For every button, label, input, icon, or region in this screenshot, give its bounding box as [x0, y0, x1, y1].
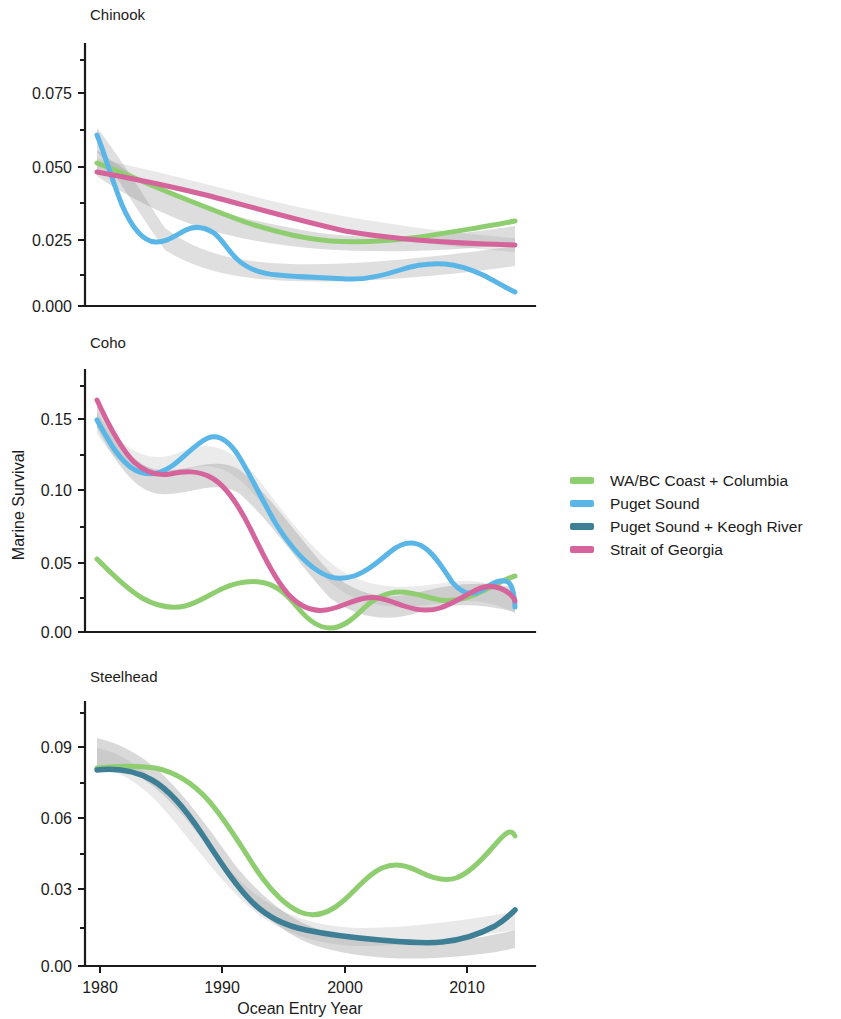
legend-label-2: Puget Sound + Keogh River [610, 518, 803, 535]
chart-svg: Chinook 0.000 0.025 0.050 0.075 [0, 0, 841, 1019]
legend-swatch-green [570, 477, 594, 484]
steelhead-ytick-3: 0.09 [41, 739, 72, 756]
chinook-confidence-bands [97, 128, 515, 281]
chinook-ytick-1: 0.025 [32, 232, 72, 249]
xtick-2010: 2010 [449, 979, 485, 996]
y-axis-title: Marine Survival [10, 450, 27, 560]
legend-label-3: Strait of Georgia [610, 541, 723, 558]
steelhead-ytick-1: 0.03 [41, 881, 72, 898]
coho-ytick-1: 0.05 [41, 555, 72, 572]
coho-line-puget-sound [97, 420, 515, 607]
panel-chinook: Chinook 0.000 0.025 0.050 0.075 [32, 6, 535, 315]
panel-title-coho: Coho [90, 334, 126, 351]
coho-ytick-2: 0.10 [41, 482, 72, 499]
panel-steelhead: Steelhead 0.00 0.03 0.06 0.09 [41, 668, 535, 1017]
steelhead-ytick-2: 0.06 [41, 810, 72, 827]
legend-swatch-pink [570, 546, 594, 553]
legend-swatch-lightblue [570, 500, 594, 507]
panel-title-chinook: Chinook [90, 6, 146, 23]
legend-label-0: WA/BC Coast + Columbia [610, 472, 789, 489]
xtick-1990: 1990 [204, 979, 240, 996]
coho-ytick-0: 0.00 [41, 624, 72, 641]
chinook-ytick-3: 0.075 [32, 85, 72, 102]
coho-ytick-3: 0.15 [41, 411, 72, 428]
legend-label-1: Puget Sound [610, 495, 700, 512]
panel-title-steelhead: Steelhead [90, 668, 158, 685]
chinook-ytick-0: 0.000 [32, 298, 72, 315]
legend: WA/BC Coast + Columbia Puget Sound Puget… [570, 472, 803, 558]
xtick-2000: 2000 [327, 979, 363, 996]
legend-swatch-darkblue [570, 523, 594, 530]
chinook-ytick-2: 0.050 [32, 159, 72, 176]
xtick-1980: 1980 [82, 979, 118, 996]
marine-survival-figure: Chinook 0.000 0.025 0.050 0.075 [0, 0, 841, 1019]
x-axis-title: Ocean Entry Year [237, 1000, 363, 1017]
steelhead-ytick-0: 0.00 [41, 958, 72, 975]
panel-coho: Coho 0.00 0.05 0.10 0.15 Marine Survival [10, 334, 535, 641]
